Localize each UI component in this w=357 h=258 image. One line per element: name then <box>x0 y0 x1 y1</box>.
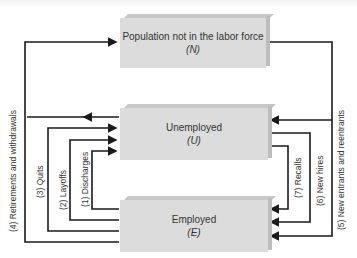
box-label: Employed <box>172 213 216 226</box>
flow-label-discharges: (1) Discharges <box>80 152 90 207</box>
bevel <box>268 198 272 250</box>
box-unemployed: Unemployed (U) <box>120 108 268 160</box>
box-label: Unemployed <box>166 121 222 134</box>
bevel <box>266 16 270 66</box>
flow-label-recalls: (7) Recalls <box>293 157 303 198</box>
box-not-in-labor-force: Population not in the labor force (N) <box>120 18 266 68</box>
flow-label-quits: (3) Quits <box>35 165 45 198</box>
flow-label-new-entrants: (5) New entrants and reentrants <box>336 110 346 230</box>
flow-label-retirements: (4) Retirements and withdrawals <box>8 110 18 232</box>
bevel <box>268 106 272 158</box>
flow-label-layoffs: (2) Layoffs <box>58 170 68 210</box>
flow-label-new-hires: (6) New hires <box>315 155 325 206</box>
box-symbol: (E) <box>187 226 200 239</box>
box-employed: Employed (E) <box>120 200 268 252</box>
box-label: Population not in the labor force <box>122 30 263 43</box>
box-symbol: (N) <box>186 43 200 56</box>
box-symbol: (U) <box>187 134 201 147</box>
